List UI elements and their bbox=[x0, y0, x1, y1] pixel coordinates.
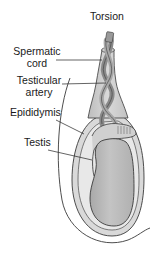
label-testis: Testis bbox=[24, 136, 51, 148]
label-testicular-artery: Testicular artery bbox=[12, 74, 66, 98]
testis-body bbox=[90, 139, 134, 226]
testicular-torsion-diagram: Torsion Spermatic cord Testicular artery… bbox=[0, 0, 154, 262]
label-spermatic-cord: Spermatic cord bbox=[12, 45, 62, 69]
label-testicular-artery-line1: Testicular bbox=[12, 74, 66, 86]
label-epididymis: Epididymis bbox=[10, 106, 61, 118]
anatomy-illustration bbox=[0, 0, 154, 262]
label-spermatic-cord-line2: cord bbox=[12, 57, 62, 69]
label-testicular-artery-line2: artery bbox=[12, 86, 66, 98]
label-torsion: Torsion bbox=[90, 10, 124, 22]
leader-epididymis bbox=[56, 120, 84, 134]
label-spermatic-cord-line1: Spermatic bbox=[12, 45, 62, 57]
cord-top-stub bbox=[105, 32, 114, 43]
